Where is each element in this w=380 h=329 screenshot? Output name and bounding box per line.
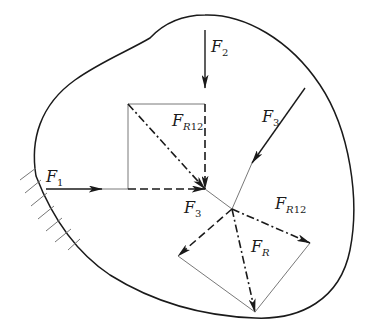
label-fr12-bottom: FR12	[274, 194, 306, 215]
rigid-body-outline	[34, 15, 353, 318]
label-fr12-top: FR12	[171, 111, 203, 132]
label-f1: F1	[45, 167, 63, 188]
force-fr12-arrow	[128, 104, 205, 189]
force-fr-resultant-arrow	[232, 209, 255, 312]
label-fr: FR	[250, 237, 270, 258]
force-diagram: F1 F2 F3 FR12 F3 FR12 FR	[0, 0, 380, 329]
label-f2: F2	[210, 37, 228, 58]
label-f3-bottom: F3	[183, 198, 201, 219]
label-f3-top: F3	[261, 107, 279, 128]
